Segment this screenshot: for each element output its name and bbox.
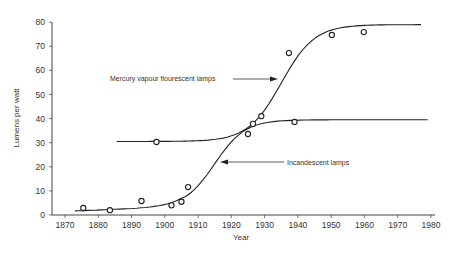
data-point-incandescent (245, 131, 250, 136)
data-point-mercury (361, 29, 366, 34)
x-tick-label: 1920 (222, 220, 241, 230)
data-point-incandescent (259, 114, 264, 119)
x-tick-label: 1950 (322, 220, 341, 230)
data-point-incandescent (107, 208, 112, 213)
x-tick-label: 1880 (89, 220, 108, 230)
y-tick-label: 40 (36, 114, 46, 124)
data-point-mercury (329, 32, 334, 37)
trend-curves (75, 25, 428, 211)
y-tick-label: 0 (40, 210, 45, 220)
annotation-incandescent: Incandescent lamps (220, 159, 350, 167)
data-point-incandescent (250, 121, 255, 126)
y-axis-title: Lumens per watt (12, 88, 21, 148)
data-point-mercury (154, 139, 159, 144)
arrow-right-icon (270, 77, 278, 82)
y-tick-label: 80 (36, 17, 46, 27)
y-tick-label: 20 (36, 162, 46, 172)
data-point-incandescent (185, 184, 190, 189)
trend-curve-mercury (117, 25, 421, 142)
data-point-incandescent (179, 199, 184, 204)
annotation-mercury-label: Mercury vapour flourescent lamps (110, 75, 216, 83)
x-tick-label: 1870 (56, 220, 75, 230)
data-point-incandescent (139, 198, 144, 203)
y-tick-label: 10 (36, 186, 46, 196)
data-point-incandescent (81, 205, 86, 210)
lamp-efficacy-chart: 01020304050607080 1870188018901900191019… (0, 0, 456, 254)
x-axis-title: Year (233, 233, 250, 242)
x-tick-label: 1930 (255, 220, 274, 230)
x-tick-label: 1970 (388, 220, 407, 230)
trend-curve-incandescent (75, 120, 428, 211)
annotation-mercury: Mercury vapour flourescent lamps (110, 75, 278, 83)
x-ticks: 1870188018901900191019201930194019501960… (56, 215, 441, 230)
y-tick-label: 70 (36, 41, 46, 51)
axes (52, 22, 435, 215)
arrow-left-icon (220, 160, 228, 165)
x-tick-label: 1910 (189, 220, 208, 230)
y-tick-label: 50 (36, 90, 46, 100)
x-tick-label: 1900 (155, 220, 174, 230)
data-point-incandescent (169, 203, 174, 208)
x-tick-label: 1940 (288, 220, 307, 230)
x-tick-label: 1890 (122, 220, 141, 230)
data-point-incandescent (292, 119, 297, 124)
annotation-incandescent-label: Incandescent lamps (287, 159, 350, 167)
x-tick-label: 1980 (422, 220, 441, 230)
y-tick-label: 60 (36, 65, 46, 75)
x-tick-label: 1960 (355, 220, 374, 230)
y-ticks: 01020304050607080 (36, 17, 52, 220)
data-points (81, 29, 367, 212)
data-point-mercury (286, 50, 291, 55)
y-tick-label: 30 (36, 138, 46, 148)
